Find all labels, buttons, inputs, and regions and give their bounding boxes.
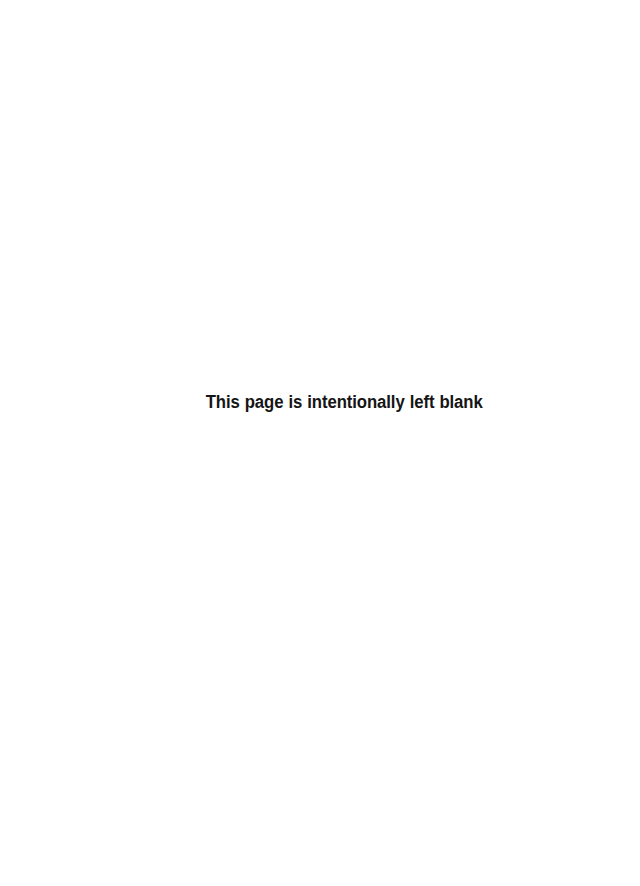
document-page: This page is intentionally left blank: [0, 0, 640, 886]
intentionally-blank-notice: This page is intentionally left blank: [22, 391, 617, 413]
